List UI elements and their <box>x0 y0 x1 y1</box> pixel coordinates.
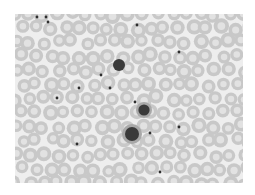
neutrophil-nucleus <box>138 104 149 115</box>
platelet <box>178 51 181 54</box>
lymphocyte-nucleus <box>113 59 125 71</box>
platelet <box>136 24 139 27</box>
platelet <box>78 87 81 90</box>
monocyte-nucleus <box>125 127 139 141</box>
platelet <box>76 143 79 146</box>
platelet <box>47 21 50 24</box>
platelet <box>178 126 181 129</box>
platelet <box>159 171 162 174</box>
platelet <box>109 87 112 90</box>
platelet <box>134 101 137 104</box>
platelet <box>149 132 152 135</box>
red-blood-cell <box>237 179 243 183</box>
platelet <box>56 97 59 100</box>
platelet <box>100 74 103 77</box>
smear-canvas <box>15 14 243 183</box>
platelet <box>45 16 48 19</box>
platelet <box>36 16 39 19</box>
blood-smear-image <box>15 14 243 183</box>
